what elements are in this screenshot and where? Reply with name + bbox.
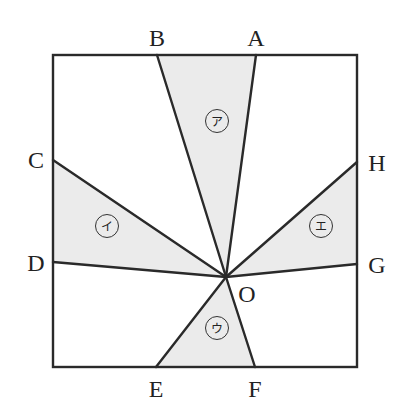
point-label-E: E [149, 376, 164, 402]
region-label-text: イ [101, 220, 113, 234]
point-label-C: C [28, 147, 44, 173]
region-label-text: ウ [211, 322, 223, 336]
region-label-text: ア [211, 115, 223, 129]
point-label-F: F [248, 376, 261, 402]
point-label-D: D [27, 250, 44, 276]
point-label-G: G [368, 252, 385, 278]
geometry-diagram: アイウエ ABCDEFGHO [0, 0, 405, 413]
point-label-H: H [368, 150, 385, 176]
point-label-O: O [238, 281, 255, 307]
point-label-B: B [149, 25, 165, 51]
point-label-A: A [247, 25, 265, 51]
region-label-text: エ [315, 220, 327, 234]
